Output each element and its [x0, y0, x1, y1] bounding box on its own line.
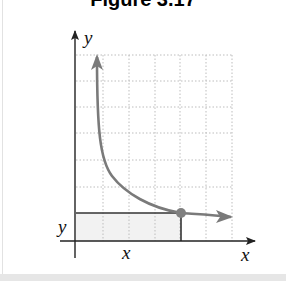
y-level-label: y — [56, 216, 67, 237]
diagram-canvas: y x y x — [0, 0, 286, 281]
curve-point — [176, 208, 186, 218]
x-level-label: x — [121, 242, 131, 263]
x-axis-label: x — [240, 244, 250, 265]
y-axis-label: y — [82, 27, 93, 48]
